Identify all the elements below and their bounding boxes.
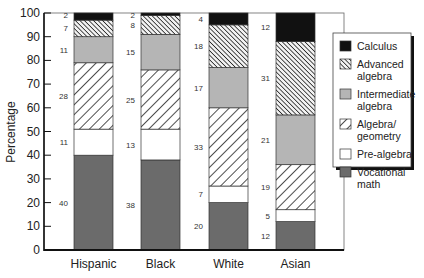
y-tick-label: 90 [27,30,41,44]
bar-segment-advanced-algebra [74,20,113,37]
segment-value-label: 7 [64,24,69,33]
segment-value-label: 20 [194,222,203,231]
segment-value-label: 4 [199,15,204,24]
segment-value-label: 11 [60,46,69,55]
bar-segment-intermediate-algebra [74,37,113,63]
bar-segment-calculus [276,13,315,41]
legend-label: Algebra/ [357,118,396,130]
segment-value-label: 38 [126,201,135,210]
bar-segment-vocational-math [74,155,113,250]
segment-value-label: 19 [261,183,270,192]
segment-value-label: 2 [64,11,69,20]
bar-segment-algebra-geometry [209,108,248,186]
y-tick-label: 40 [27,148,41,162]
x-category-label: Black [146,257,176,271]
segment-value-label: 2 [131,11,136,20]
bar-segment-algebra-geometry [141,70,180,129]
segment-value-label: 15 [126,48,135,57]
bar-segment-advanced-algebra [276,41,315,114]
legend: CalculusAdvancedalgebraIntermediatealgeb… [333,33,416,190]
bar-segment-pre-algebra [74,129,113,155]
x-category-label: Asian [280,257,310,271]
legend-swatch [340,41,351,51]
legend-label: math [357,178,381,190]
legend-label: Intermediate [357,88,416,100]
y-tick-label: 100 [20,6,40,20]
segment-value-label: 12 [261,232,270,241]
y-tick-label: 60 [27,101,41,115]
segment-value-label: 12 [261,23,270,32]
bar-segment-vocational-math [141,160,180,250]
legend-swatch [340,89,351,99]
y-tick-label: 10 [27,219,41,233]
y-tick-label: 20 [27,196,41,210]
legend-label: Vocational [357,166,405,178]
x-category-label: Hispanic [70,257,116,271]
segment-value-label: 40 [59,199,68,208]
bar-segment-advanced-algebra [141,15,180,34]
x-category-label: White [213,257,244,271]
segment-value-label: 25 [126,96,135,105]
segment-value-label: 5 [266,212,271,221]
legend-label: Advanced [357,58,404,70]
bar-segment-calculus [209,13,248,25]
segment-value-label: 8 [131,21,136,30]
bar-segment-vocational-math [276,222,315,250]
bar-segment-algebra-geometry [276,165,315,210]
y-tick-label: 30 [27,172,41,186]
stacked-bar-chart: 0102030405060708090100 40112811723813251… [0,0,424,278]
y-tick-label: 80 [27,53,41,67]
bar-segment-pre-algebra [276,210,315,222]
legend-label: Calculus [357,40,397,52]
legend-item-calculus: Calculus [340,40,397,52]
bar-segment-pre-algebra [209,186,248,203]
segment-value-label: 31 [261,74,270,83]
legend-label: geometry [357,130,402,142]
bar-segment-pre-algebra [141,129,180,160]
bar-segment-vocational-math [209,203,248,250]
y-axis-title: Percentage [4,101,18,163]
y-tick-label: 70 [27,77,41,91]
bar-segment-calculus [141,13,180,15]
bar-segment-calculus [74,13,113,20]
y-tick-label: 0 [33,243,40,257]
legend-item-vocational-math: Vocationalmath [340,166,405,190]
legend-swatch [340,119,351,129]
bar-segment-intermediate-algebra [209,68,248,108]
y-tick-label: 50 [27,125,41,139]
legend-swatch [340,59,351,69]
legend-label: algebra [357,100,392,112]
segment-value-label: 17 [194,84,203,93]
legend-item-pre-algebra: Pre-algebra [340,148,412,160]
bar-segment-intermediate-algebra [141,34,180,70]
legend-swatch [340,167,351,177]
segment-value-label: 11 [60,138,69,147]
legend-label: Pre-algebra [357,148,412,160]
x-axis: HispanicBlackWhiteAsian [44,250,344,271]
bar-segment-intermediate-algebra [276,115,315,165]
segment-value-label: 13 [126,141,135,150]
legend-label: algebra [357,70,392,82]
segment-value-label: 18 [194,42,203,51]
bar-segment-algebra-geometry [74,63,113,129]
segment-value-label: 7 [199,190,204,199]
segment-value-label: 33 [194,143,203,152]
segment-value-label: 21 [261,136,270,145]
segment-value-label: 28 [59,92,68,101]
legend-swatch [340,149,351,159]
bar-segment-advanced-algebra [209,25,248,68]
